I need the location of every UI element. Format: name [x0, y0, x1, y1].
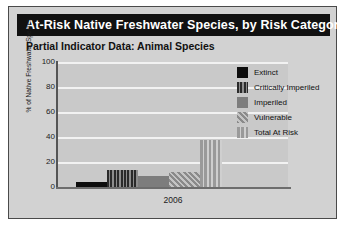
y-tick-20: 20 — [29, 158, 55, 166]
legend-label-vulnerable: Vulnerable — [254, 113, 292, 122]
y-tick-100: 100 — [29, 58, 55, 66]
y-tick-40: 40 — [29, 133, 55, 141]
legend-swatch-critically-imperiled-icon — [237, 82, 248, 93]
y-tick-80: 80 — [29, 83, 55, 91]
legend-label-extinct: Extinct — [254, 68, 278, 77]
plot-wrapper: % of Native Freshwater Species 100 80 60… — [9, 7, 338, 220]
bar-total-at-risk — [200, 140, 222, 188]
bar-vulnerable — [169, 172, 200, 187]
legend-swatch-extinct-icon — [237, 67, 248, 78]
y-tick-60: 60 — [29, 108, 55, 116]
bar-imperiled — [138, 176, 169, 187]
legend-item-vulnerable: Vulnerable — [237, 110, 335, 125]
bar-critically-imperiled — [107, 170, 138, 188]
legend-item-extinct: Extinct — [237, 65, 335, 80]
legend-item-imperiled: Imperiled — [237, 95, 335, 110]
legend-label-imperiled: Imperiled — [254, 98, 287, 107]
x-tick-2006: 2006 — [58, 195, 288, 205]
y-axis-line — [56, 61, 58, 188]
y-tick-0: 0 — [29, 183, 55, 191]
legend-swatch-total-at-risk-icon — [237, 127, 248, 138]
legend-label-total-at-risk: Total At Risk — [254, 128, 298, 137]
legend-swatch-vulnerable-icon — [237, 112, 248, 123]
y-axis-ticks: 100 80 60 40 20 0 — [23, 62, 55, 187]
legend-item-total-at-risk: Total At Risk — [237, 125, 335, 140]
chart-figure: At-Risk Native Freshwater Species, by Ri… — [8, 6, 337, 219]
legend-item-critically-imperiled: Critically Imperiled — [237, 80, 335, 95]
legend-label-critically-imperiled: Critically Imperiled — [254, 83, 319, 92]
x-axis-line — [56, 187, 291, 189]
legend-swatch-imperiled-icon — [237, 97, 248, 108]
chart-legend: Extinct Critically Imperiled Imperiled V… — [237, 65, 335, 140]
